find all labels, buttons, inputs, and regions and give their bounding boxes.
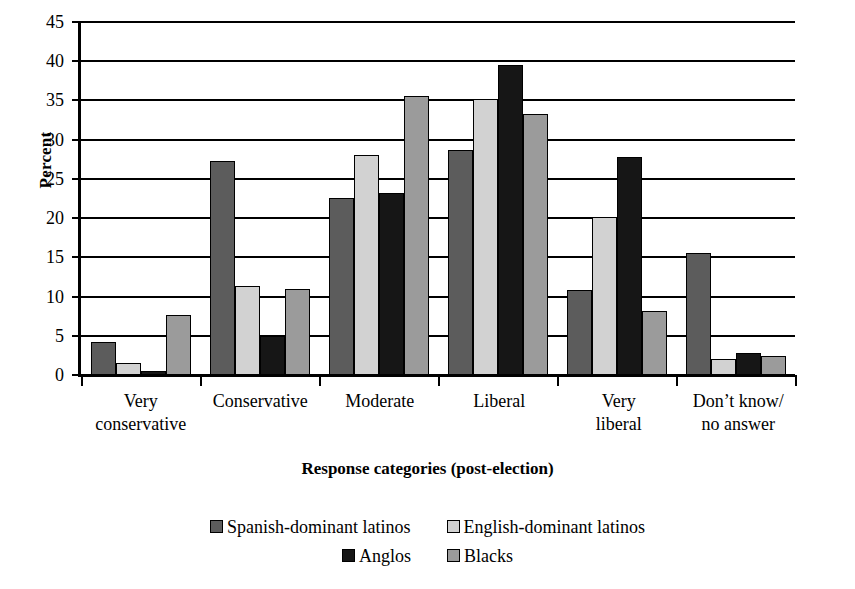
x-tick-mark	[676, 375, 678, 386]
bar	[354, 155, 379, 375]
plot-area	[78, 22, 795, 375]
legend-row: AnglosBlacks	[0, 541, 855, 570]
legend-swatch-icon	[447, 549, 460, 562]
x-axis-label-5: Don’t know/no answer	[679, 390, 799, 436]
x-tick-mark	[557, 375, 559, 386]
x-axis-label-line: liberal	[559, 413, 679, 436]
bar	[617, 157, 642, 375]
bar	[210, 161, 235, 375]
bar	[473, 99, 498, 375]
bar	[448, 150, 473, 375]
x-tick-mark	[438, 375, 440, 386]
legend-label: Blacks	[464, 546, 513, 566]
x-tick-mark	[795, 375, 797, 386]
legend-swatch-icon	[342, 549, 355, 562]
bar-group	[557, 22, 676, 375]
bar-group	[676, 22, 795, 375]
x-axis-label-line: Liberal	[440, 390, 560, 413]
legend-item[interactable]: Blacks	[447, 546, 513, 566]
x-axis-label-line: Very	[559, 390, 679, 413]
legend-label: Anglos	[359, 546, 411, 566]
legend-item[interactable]: Spanish-dominant latinos	[210, 517, 411, 537]
bar-group	[200, 22, 319, 375]
bar	[498, 65, 523, 375]
bar-group	[438, 22, 557, 375]
bar-group	[81, 22, 200, 375]
x-axis-label-0: Veryconservative	[81, 390, 201, 436]
x-axis-label-line: Don’t know/	[679, 390, 799, 413]
legend-label: English-dominant latinos	[464, 517, 646, 537]
x-tick-mark	[319, 375, 321, 386]
bar-groups	[81, 22, 795, 375]
x-axis-title: Response categories (post-election)	[0, 459, 855, 479]
x-axis-label-line: Very	[81, 390, 201, 413]
bar	[285, 289, 310, 375]
bar	[642, 311, 667, 375]
bar	[567, 290, 592, 376]
bar	[260, 336, 285, 375]
x-axis-label-2: Moderate	[320, 390, 440, 436]
x-axis-label-3: Liberal	[440, 390, 560, 436]
bar-group	[319, 22, 438, 375]
bar	[761, 356, 786, 375]
x-axis-label-line: no answer	[679, 413, 799, 436]
legend: Spanish-dominant latinosEnglish-dominant…	[0, 512, 855, 570]
bar	[523, 114, 548, 375]
legend-item[interactable]: English-dominant latinos	[447, 517, 646, 537]
legend-label: Spanish-dominant latinos	[227, 517, 411, 537]
legend-row: Spanish-dominant latinosEnglish-dominant…	[0, 512, 855, 541]
x-axis-label-4: Veryliberal	[559, 390, 679, 436]
x-tick-mark	[81, 375, 83, 386]
bar	[711, 359, 736, 375]
bar	[166, 315, 191, 375]
bar	[116, 363, 141, 375]
x-axis-label-line: Moderate	[320, 390, 440, 413]
bar	[404, 96, 429, 375]
legend-item[interactable]: Anglos	[342, 546, 411, 566]
bar	[736, 353, 761, 375]
x-axis-label-1: Conservative	[201, 390, 321, 436]
x-axis-category-labels: VeryconservativeConservativeModerateLibe…	[81, 390, 798, 436]
legend-swatch-icon	[210, 520, 223, 533]
bar	[91, 342, 116, 375]
bar	[379, 193, 404, 375]
bar	[235, 286, 260, 375]
bar	[592, 217, 617, 375]
x-axis-label-line: Conservative	[201, 390, 321, 413]
bar	[686, 253, 711, 375]
x-axis-tick-marks	[78, 375, 795, 387]
bar-chart-figure: Percent 454035302520151050 Veryconservat…	[0, 0, 855, 589]
x-axis-label-line: conservative	[81, 413, 201, 436]
x-tick-mark	[200, 375, 202, 386]
bar	[329, 198, 354, 375]
legend-swatch-icon	[447, 520, 460, 533]
